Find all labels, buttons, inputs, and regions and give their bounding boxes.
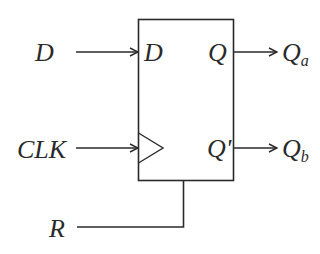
qbar-pin-label: Q' bbox=[207, 134, 232, 163]
qa-subscript: a bbox=[301, 52, 309, 69]
qa-main: Q bbox=[282, 38, 301, 67]
qa-output-label: Qa bbox=[282, 38, 309, 69]
qb-subscript: b bbox=[301, 148, 309, 165]
d-pin-label: D bbox=[143, 38, 163, 67]
r-reset-line bbox=[77, 180, 184, 227]
clk-input-label: CLK bbox=[17, 135, 68, 164]
clock-triangle-icon bbox=[139, 133, 164, 163]
qb-output-label: Qb bbox=[282, 134, 309, 165]
d-input-label: D bbox=[34, 38, 54, 67]
q-pin-label: Q bbox=[208, 38, 227, 67]
r-input-label: R bbox=[48, 214, 65, 243]
qb-main: Q bbox=[282, 134, 301, 163]
flip-flop-diagram: D CLK R D Q Q' Qa Qb bbox=[0, 0, 320, 254]
